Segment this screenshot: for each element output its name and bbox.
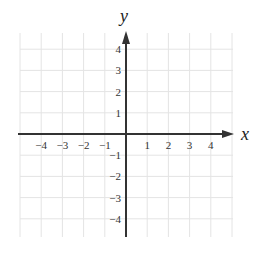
x-tick-label: −3 [57, 139, 69, 151]
y-tick-label: −1 [109, 149, 121, 161]
x-tick-label: 2 [166, 139, 172, 151]
y-axis-label: y [118, 6, 128, 26]
axes [18, 31, 234, 237]
y-tick-label: −3 [109, 192, 121, 204]
coordinate-plane: −4−3−2−11234 4321−1−2−3−4 x y [0, 0, 255, 254]
x-tick-label: 1 [144, 139, 150, 151]
x-tick-label: −2 [78, 139, 90, 151]
y-tick-label: 4 [116, 43, 122, 55]
x-tick-label: 4 [208, 139, 214, 151]
y-axis-arrow-icon [122, 31, 130, 44]
y-tick-label: −4 [109, 213, 121, 225]
y-tick-label: 1 [116, 107, 122, 119]
x-tick-labels: −4−3−2−11234 [35, 139, 214, 151]
y-tick-label: 2 [116, 86, 122, 98]
y-tick-label: −2 [109, 170, 121, 182]
x-tick-label: −4 [35, 139, 47, 151]
x-tick-label: 3 [187, 139, 193, 151]
y-tick-label: 3 [116, 64, 122, 76]
x-axis-label: x [240, 124, 249, 144]
